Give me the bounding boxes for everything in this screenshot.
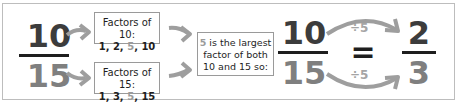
factors-of-15-title: Factors of 15: [95,67,159,91]
factors-of-10-title: Factors of 10: [95,17,159,41]
result-denominator: 3 [404,57,434,89]
divide-label-top: ÷5 [350,21,368,35]
factors-of-10-box: Factors of 10: 1, 2, 5, 10 [94,12,160,44]
largest-factor-box: 5 is the largest factor of both 10 and 1… [197,32,274,76]
arrow-to-conclusion-top-icon [168,24,194,44]
mid-numerator: 10 [280,17,328,49]
mid-denominator: 15 [280,57,328,89]
factors-of-15-box: Factors of 15: 1, 3, 5, 15 [94,62,160,94]
arrow-to-factors-15-icon [66,68,92,88]
arrow-to-conclusion-bottom-icon [168,60,194,80]
factors-of-15-list: 1, 3, 5, 15 [95,91,159,103]
equals-sign: = [348,37,378,67]
divide-label-bottom: ÷5 [350,68,368,82]
arrow-to-factors-10-icon [66,22,92,42]
factors-of-10-list: 1, 2, 5, 10 [95,41,159,53]
result-numerator: 2 [404,17,434,49]
